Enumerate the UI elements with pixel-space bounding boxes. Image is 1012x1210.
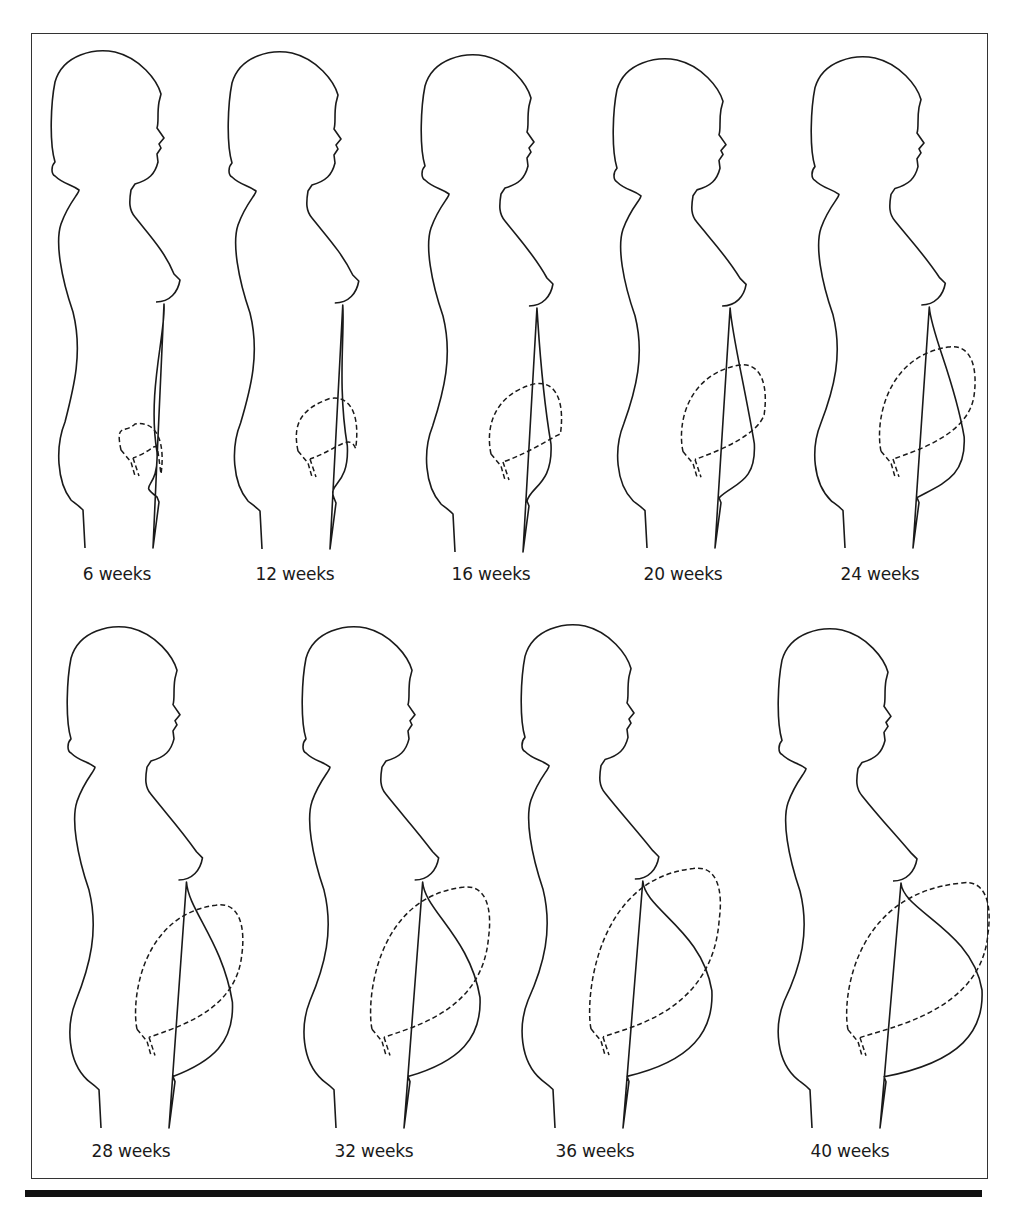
body-silhouette [421, 55, 553, 552]
figure-20-weeks [613, 59, 765, 548]
stage-label: 20 weeks [644, 564, 723, 584]
body-silhouette [811, 57, 964, 548]
stage-label: 40 weeks [811, 1141, 890, 1161]
uterus-outline [879, 347, 975, 477]
body-silhouette [521, 625, 712, 1128]
uterus-outline [296, 398, 356, 477]
body-silhouette [228, 52, 359, 549]
uterus-outline [489, 383, 561, 480]
bottom-rule [25, 1190, 982, 1197]
stage-label: 16 weeks [452, 564, 531, 584]
stage-label: 36 weeks [556, 1141, 635, 1161]
body-silhouette [51, 51, 180, 548]
figure-24-weeks [811, 57, 975, 548]
body-silhouette [302, 627, 480, 1128]
figure-32-weeks [302, 627, 489, 1128]
uterus-outline [847, 883, 989, 1056]
stage-label: 28 weeks [92, 1141, 171, 1161]
body-silhouette [778, 629, 982, 1128]
stage-label: 6 weeks [83, 564, 151, 584]
figure-36-weeks [521, 625, 720, 1128]
pregnancy-stages-illustration [0, 0, 1012, 1210]
body-silhouette [613, 59, 754, 548]
figure-40-weeks [778, 629, 989, 1128]
stage-label: 32 weeks [335, 1141, 414, 1161]
figure-12-weeks [228, 52, 359, 549]
uterus-outline [590, 868, 721, 1055]
stage-label: 12 weeks [256, 564, 335, 584]
figure-6-weeks [51, 51, 180, 548]
figure-16-weeks [421, 55, 561, 552]
stage-label: 24 weeks [841, 564, 920, 584]
uterus-outline [371, 887, 490, 1055]
figure-28-weeks [67, 627, 243, 1128]
